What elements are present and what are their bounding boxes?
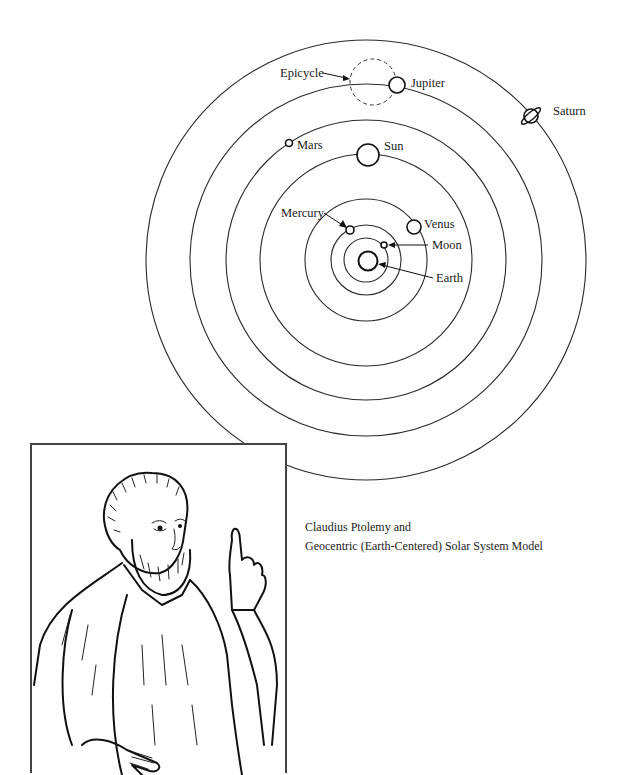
label-mars: Mars [297, 138, 323, 152]
jupiter-body [389, 77, 405, 93]
label-mercury: Mercury [281, 206, 325, 220]
moon-body [381, 242, 387, 248]
caption-line-2: Geocentric (Earth-Centered) Solar System… [305, 537, 543, 556]
label-sun: Sun [384, 139, 404, 153]
portrait-eye-right [178, 524, 182, 528]
label-saturn: Saturn [553, 104, 586, 118]
label-epicycle: Epicycle [280, 66, 324, 80]
moon-arrow [388, 242, 428, 248]
label-earth: Earth [436, 271, 464, 285]
portrait-raised-hand [229, 529, 266, 610]
label-jupiter: Jupiter [411, 76, 446, 90]
portrait-sleeve [232, 610, 277, 745]
mercury-body [346, 226, 354, 234]
portrait-collar [124, 565, 190, 605]
portrait-nose [172, 529, 180, 550]
epicycle-arrow [323, 73, 350, 81]
earth-body [359, 252, 378, 271]
portrait-robe-folds [62, 615, 197, 745]
sun-body [357, 144, 379, 166]
mercury-arrow [324, 213, 347, 228]
portrait-robe [34, 563, 242, 775]
label-venus: Venus [424, 217, 455, 231]
mars-body [286, 140, 293, 147]
portrait-eye-left [158, 526, 163, 531]
venus-body [407, 220, 421, 234]
ptolemy-portrait [30, 443, 287, 773]
portrait-head [104, 473, 188, 574]
earth-arrow [378, 262, 433, 278]
label-moon: Moon [432, 238, 463, 252]
caption-line-1: Claudius Ptolemy and [305, 518, 543, 537]
portrait-robe-left [63, 595, 127, 775]
caption: Claudius Ptolemy and Geocentric (Earth-C… [305, 518, 543, 556]
